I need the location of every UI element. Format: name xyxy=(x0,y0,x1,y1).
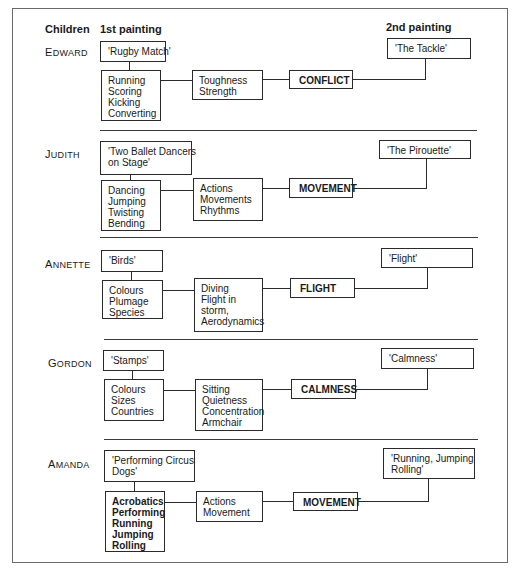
first-painting-title: 'Stamps' xyxy=(111,355,157,366)
second-painting-title: 'The Tackle' xyxy=(395,43,464,54)
first-painting-title: on Stage' xyxy=(108,157,185,168)
activities-box: Colours Plumage Species xyxy=(102,280,163,319)
second-painting-box: 'The Pirouette' xyxy=(379,140,471,159)
row-divider xyxy=(104,439,478,440)
connector xyxy=(425,58,426,80)
child-name: EDWARD xyxy=(45,46,88,58)
theme-box: MOVEMENT xyxy=(293,492,358,511)
connector xyxy=(428,478,429,502)
connector xyxy=(353,79,426,80)
first-painting-box: 'Two Ballet Dancers on Stage' xyxy=(100,141,192,175)
connector xyxy=(160,80,192,81)
qualities-box: Sitting Quietness Concentration Armchair xyxy=(195,379,263,431)
first-painting-title: 'Birds' xyxy=(109,255,156,266)
quality: Movement xyxy=(203,507,256,518)
child-name: ANNETTE xyxy=(45,258,90,270)
activities-box: Colours Sizes Countries xyxy=(104,379,164,421)
connector xyxy=(262,79,289,80)
child-name-rest: MANDA xyxy=(56,460,90,470)
connector xyxy=(163,390,196,391)
theme-box: CONFLICT xyxy=(289,70,353,89)
theme-label: FLIGHT xyxy=(300,283,348,294)
connector xyxy=(355,288,428,289)
qualities-box: Diving Flight in storm, Aerodynamics xyxy=(194,278,263,332)
activity: Sizes xyxy=(111,395,157,406)
theme-box: FLIGHT xyxy=(290,278,355,298)
first-painting-box: 'Performing Circus Dogs' xyxy=(104,450,195,482)
activities-box: Dancing Jumping Twisting Bending xyxy=(101,180,161,231)
child-name-initial: A xyxy=(48,458,56,470)
quality: Concentration xyxy=(202,406,256,417)
connector xyxy=(160,190,193,191)
first-painting-title: 'Rugby Match' xyxy=(108,46,159,57)
connector xyxy=(427,368,428,390)
activity: Dancing xyxy=(108,185,154,196)
qualities-box: Actions Movement xyxy=(196,491,263,522)
first-painting-box: 'Birds' xyxy=(101,250,163,272)
second-painting-box: 'Running, Jumping Rolling' xyxy=(383,448,475,479)
child-name: GORDON xyxy=(48,357,92,369)
first-painting-title: 'Performing Circus xyxy=(112,455,188,466)
qualities-box: Actions Movements Rhythms xyxy=(193,178,263,221)
activity: Colours xyxy=(111,384,157,395)
connector xyxy=(162,290,195,291)
connector xyxy=(427,267,428,289)
second-painting-box: 'Flight' xyxy=(381,248,473,268)
qualities-box: Toughness Strength xyxy=(192,70,263,100)
activity: Plumage xyxy=(109,296,156,307)
quality: Sitting xyxy=(202,384,256,395)
quality: Rhythms xyxy=(200,205,256,216)
activity: Converting xyxy=(108,108,154,119)
quality: Strength xyxy=(199,86,256,97)
child-name: JUDITH xyxy=(45,148,80,160)
activities-box: Running Scoring Kicking Converting xyxy=(101,70,161,121)
child-name-rest: NNETTE xyxy=(53,260,91,270)
quality: Actions xyxy=(200,183,256,194)
activity: Kicking xyxy=(108,97,154,108)
second-painting-box: 'The Tackle' xyxy=(387,38,471,59)
child-name-rest: DWARD xyxy=(53,48,88,58)
second-painting-box: 'Calmness' xyxy=(381,348,474,369)
quality: Toughness xyxy=(199,75,256,86)
quality: Quietness xyxy=(202,395,256,406)
connector xyxy=(353,188,427,189)
second-painting-title: 'The Pirouette' xyxy=(387,145,464,156)
second-painting-title: Rolling' xyxy=(391,464,468,475)
connector xyxy=(357,501,429,502)
child-name-initial: E xyxy=(45,46,53,58)
theme-label: MOVEMENT xyxy=(303,497,351,508)
child-name-initial: A xyxy=(45,258,53,270)
row-divider xyxy=(100,237,478,238)
activity: Twisting xyxy=(108,207,154,218)
header-second-painting: 2nd painting xyxy=(386,21,451,33)
quality: Flight in xyxy=(201,294,256,305)
first-painting-box: 'Stamps' xyxy=(103,350,164,371)
activity: Running xyxy=(108,75,154,86)
activity: Countries xyxy=(111,406,157,417)
connector xyxy=(262,188,289,189)
activity: Jumping xyxy=(112,529,158,540)
quality: Armchair xyxy=(202,417,256,428)
activity: Bending xyxy=(108,218,154,229)
activity: Jumping xyxy=(108,196,154,207)
activities-box: Acrobatics Performing Running Jumping Ro… xyxy=(105,491,165,552)
quality: Movements xyxy=(200,194,256,205)
first-painting-title: 'Two Ballet Dancers xyxy=(108,146,185,157)
first-painting-title: Dogs' xyxy=(112,466,188,477)
row-divider xyxy=(100,130,477,131)
theme-box: CALMNESS xyxy=(291,379,356,399)
first-painting-box: 'Rugby Match' xyxy=(100,41,166,62)
activity: Rolling xyxy=(112,540,158,551)
theme-label: MOVEMENT xyxy=(299,183,346,194)
child-name-rest: ORDON xyxy=(57,359,92,369)
theme-box: MOVEMENT xyxy=(289,178,353,198)
theme-label: CONFLICT xyxy=(299,75,346,86)
quality: storm, xyxy=(201,305,256,316)
theme-label: CALMNESS xyxy=(301,384,349,395)
child-name: AMANDA xyxy=(48,458,90,470)
activity: Performing xyxy=(112,507,158,518)
child-name-initial: G xyxy=(48,357,57,369)
quality: Diving xyxy=(201,283,256,294)
connector xyxy=(426,157,427,189)
row-divider xyxy=(104,339,478,340)
